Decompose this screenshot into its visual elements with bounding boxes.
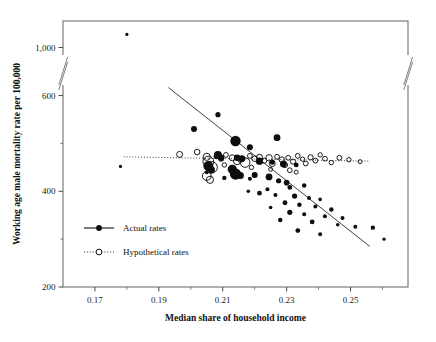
data-point-actual xyxy=(297,202,301,206)
data-point-actual xyxy=(218,155,224,161)
x-tick-label: 0.19 xyxy=(151,295,167,305)
data-point-actual xyxy=(208,166,215,173)
legend-marker-hypothetical xyxy=(96,249,102,255)
data-point-actual xyxy=(302,212,306,216)
data-point-actual xyxy=(276,178,281,183)
data-point-actual xyxy=(287,185,292,190)
data-point-actual xyxy=(215,112,220,117)
data-point-actual xyxy=(307,196,311,200)
legend-label-hypothetical: Hypothetical rates xyxy=(123,247,189,257)
data-point-actual xyxy=(284,180,290,186)
data-point-actual xyxy=(273,193,277,197)
x-tick-label: 0.23 xyxy=(279,295,295,305)
data-point-actual xyxy=(341,216,345,220)
data-point-actual xyxy=(125,33,128,36)
data-point-actual xyxy=(294,163,299,168)
y-tick-label: 400 xyxy=(42,186,56,196)
data-point-actual xyxy=(247,144,253,150)
data-point-actual xyxy=(252,172,258,178)
data-point-actual xyxy=(313,205,317,209)
chart-figure: 2004006001,000 0.170.190.210.230.25 Actu… xyxy=(0,0,436,342)
data-point-actual xyxy=(280,161,287,168)
data-point-actual xyxy=(205,170,209,174)
legend-marker-actual xyxy=(96,225,102,231)
data-point-actual xyxy=(191,126,197,132)
data-point-actual xyxy=(266,174,273,181)
data-point-actual xyxy=(353,225,357,229)
data-point-actual xyxy=(248,177,252,181)
data-point-actual xyxy=(230,136,240,146)
data-point-actual xyxy=(329,207,333,211)
data-point-actual xyxy=(257,191,262,196)
data-point-actual xyxy=(246,189,250,193)
data-point-actual xyxy=(295,228,300,233)
data-point-actual xyxy=(323,214,327,218)
data-point-actual xyxy=(119,165,122,168)
data-point-actual xyxy=(222,176,226,180)
data-point-actual xyxy=(270,159,275,164)
data-point-actual xyxy=(238,155,245,162)
data-point-actual xyxy=(382,238,385,241)
data-point-actual xyxy=(265,187,269,191)
data-point-actual xyxy=(336,223,340,227)
y-tick-label: 200 xyxy=(42,282,56,292)
scatter-plot-svg: 2004006001,000 0.170.190.210.230.25 Actu… xyxy=(0,0,436,342)
legend-label-actual: Actual rates xyxy=(123,223,167,233)
data-point-actual xyxy=(292,193,297,198)
x-axis-title: Median share of household income xyxy=(165,313,306,323)
chart-background xyxy=(0,0,436,342)
x-tick-label: 0.17 xyxy=(87,295,103,305)
y-tick-label: 600 xyxy=(42,91,56,101)
data-point-actual xyxy=(287,210,292,215)
data-point-actual xyxy=(269,206,273,210)
data-point-actual xyxy=(310,220,315,225)
y-axis-title: Working age male mortality rate per 100,… xyxy=(12,63,22,245)
y-tick-label: 1,000 xyxy=(35,43,56,53)
data-point-actual xyxy=(371,225,375,229)
data-point-actual xyxy=(283,200,288,205)
data-point-actual xyxy=(318,232,322,236)
data-point-actual xyxy=(237,172,244,179)
data-point-actual xyxy=(278,218,282,222)
data-point-actual xyxy=(302,183,306,187)
data-point-actual xyxy=(318,198,322,202)
data-point-actual xyxy=(256,158,263,165)
x-tick-label: 0.25 xyxy=(343,295,359,305)
x-tick-label: 0.21 xyxy=(215,295,231,305)
data-point-actual xyxy=(274,134,281,141)
